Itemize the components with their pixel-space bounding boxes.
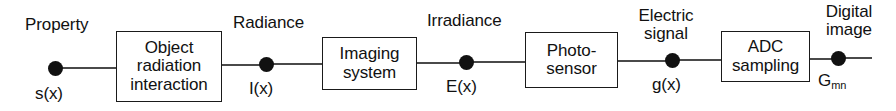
symbol-digital-image: Gmn: [818, 72, 846, 92]
label-property-text: Property: [25, 15, 88, 34]
block-object-radiation-interaction-line-3: interaction: [130, 76, 207, 94]
block-imaging-system-line-2: system: [343, 64, 396, 82]
block-photo-sensor-line-1: Photo-: [547, 42, 597, 60]
node-electric-signal[interactable]: [665, 53, 680, 68]
imaging-chain-diagram: Object radiation interaction Imaging sys…: [0, 0, 896, 111]
label-property: Property: [25, 16, 88, 34]
node-radiance[interactable]: [259, 57, 274, 72]
symbol-property-text: s(x): [35, 84, 63, 103]
block-object-radiation-interaction-line-1: Object: [145, 39, 194, 57]
label-digital-image-line-1: Digital: [812, 3, 886, 21]
node-irradiance[interactable]: [459, 55, 474, 70]
node-digital-image[interactable]: [831, 51, 846, 66]
block-object-radiation-interaction[interactable]: Object radiation interaction: [116, 31, 222, 102]
symbol-property: s(x): [35, 85, 63, 103]
wire-property-to-object-box: [60, 67, 118, 69]
wire-electric-signal-to-adc-box: [674, 59, 723, 61]
label-electric-signal: Electric signal: [627, 7, 705, 42]
label-irradiance: Irradiance: [427, 12, 502, 30]
symbol-digital-image-text: G: [818, 71, 831, 90]
block-adc-sampling-line-1: ADC: [748, 38, 784, 56]
label-radiance-text: Radiance: [233, 13, 304, 32]
block-photo-sensor-line-2: sensor: [546, 60, 596, 78]
label-radiance: Radiance: [233, 14, 304, 32]
symbol-irradiance: E(x): [446, 78, 477, 96]
block-object-radiation-interaction-line-2: radiation: [137, 57, 201, 75]
label-irradiance-text: Irradiance: [427, 11, 502, 30]
wire-irradiance-to-photosensor-box: [469, 61, 527, 63]
block-imaging-system[interactable]: Imaging system: [322, 37, 417, 90]
block-adc-sampling[interactable]: ADC sampling: [721, 31, 810, 82]
symbol-digital-image-subscript: mn: [831, 79, 846, 91]
node-property[interactable]: [48, 61, 63, 76]
symbol-electric-signal: g(x): [652, 76, 681, 94]
label-digital-image-line-2: image: [812, 21, 886, 39]
block-imaging-system-line-1: Imaging: [340, 45, 400, 63]
wire-radiance-to-imaging-box: [269, 63, 324, 65]
block-adc-sampling-line-2: sampling: [732, 57, 799, 75]
label-digital-image: Digital image: [812, 3, 886, 38]
symbol-electric-signal-text: g(x): [652, 75, 681, 94]
block-photo-sensor[interactable]: Photo- sensor: [525, 32, 618, 88]
symbol-radiance: I(x): [249, 80, 273, 98]
label-electric-signal-line-2: signal: [627, 25, 705, 43]
symbol-irradiance-text: E(x): [446, 77, 477, 96]
label-electric-signal-line-1: Electric: [627, 7, 705, 25]
symbol-radiance-text: I(x): [249, 79, 273, 98]
